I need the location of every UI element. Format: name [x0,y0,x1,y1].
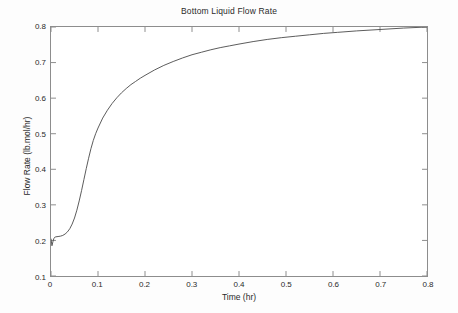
y-tick-label: 0.2 [16,237,46,246]
chart-title: Bottom Liquid Flow Rate [0,6,458,16]
y-axis-label: Flow Rate (lb.mol/hr) [22,86,32,226]
y-tick-marks [51,27,427,276]
data-series-line [51,27,427,246]
x-tick-label: 0.5 [281,280,292,289]
x-tick-label: 0.1 [92,280,103,289]
figure-canvas: Bottom Liquid Flow Rate 0.10.20.30.40.50… [0,0,458,313]
x-tick-marks [51,27,427,276]
plot-svg [51,27,427,276]
x-axis-label: Time (hr) [50,292,428,302]
y-tick-label: 0.1 [16,273,46,282]
x-tick-label: 0.4 [233,280,244,289]
y-tick-label: 0.8 [16,22,46,31]
x-tick-label: 0.7 [375,280,386,289]
x-tick-label: 0 [48,280,52,289]
x-tick-label: 0.3 [186,280,197,289]
x-tick-label: 0.6 [328,280,339,289]
x-tick-label: 0.8 [422,280,433,289]
y-tick-label: 0.7 [16,57,46,66]
plot-area [50,26,428,277]
x-tick-label: 0.2 [139,280,150,289]
